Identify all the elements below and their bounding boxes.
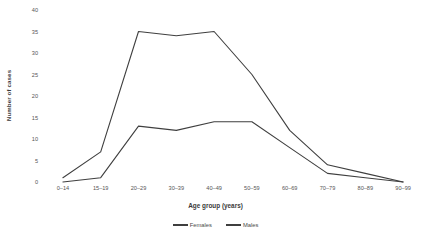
y-axis-title: Number of cases xyxy=(0,0,18,190)
chart-legend: FemalesMales xyxy=(0,222,431,228)
x-axis-tick-label: 0–14 xyxy=(57,185,69,191)
x-axis-tick-label: 20–29 xyxy=(131,185,147,191)
x-axis-tick-label: 70–79 xyxy=(320,185,336,191)
legend-swatch-icon xyxy=(226,224,241,225)
y-axis-tick-label: 0 xyxy=(35,179,38,185)
y-axis-tick-label: 25 xyxy=(32,72,38,78)
x-axis-tick-labels: 0–1415–1920–2930–3940–4950–5960–6970–798… xyxy=(44,185,422,197)
legend-swatch-icon xyxy=(173,224,188,225)
y-axis-tick-label: 5 xyxy=(35,158,38,164)
y-axis-tick-label: 40 xyxy=(32,7,38,13)
y-axis-tick-label: 30 xyxy=(32,50,38,56)
y-axis-tick-label: 35 xyxy=(32,29,38,35)
y-axis-tick-labels: 4035302520151050 xyxy=(18,10,40,182)
x-axis-tick-label: 40–49 xyxy=(206,185,222,191)
y-axis-tick-label: 15 xyxy=(32,115,38,121)
x-axis-tick-label: 30–39 xyxy=(169,185,185,191)
x-axis-title: Age group (years) xyxy=(0,202,431,209)
y-axis-title-label: Number of cases xyxy=(6,69,13,120)
legend-item-females[interactable]: Females xyxy=(173,222,212,228)
plot-area xyxy=(44,10,422,182)
x-axis-tick-label: 50–59 xyxy=(244,185,260,191)
series-group xyxy=(63,32,403,183)
legend-item-males[interactable]: Males xyxy=(226,222,258,228)
y-axis-tick-label: 10 xyxy=(32,136,38,142)
line-chart: Number of cases 4035302520151050 0–1415–… xyxy=(0,0,431,245)
x-axis-tick-label: 80–89 xyxy=(358,185,374,191)
x-axis-tick-label: 60–69 xyxy=(282,185,298,191)
series-line-males xyxy=(63,122,403,182)
x-axis-tick-label: 90–99 xyxy=(395,185,411,191)
series-lines-svg xyxy=(44,10,422,182)
legend-label: Females xyxy=(190,222,212,228)
legend-label: Males xyxy=(243,222,258,228)
y-axis-tick-label: 20 xyxy=(32,93,38,99)
x-axis-tick-label: 15–19 xyxy=(93,185,109,191)
